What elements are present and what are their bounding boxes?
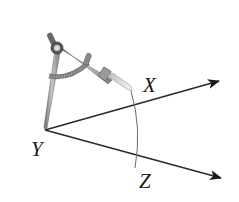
label-x: X (143, 75, 156, 96)
angle-construction-figure (0, 0, 239, 202)
compass-icon (44, 32, 132, 130)
label-z: Z (139, 171, 151, 192)
label-y: Y (31, 139, 43, 160)
ray-yx (45, 81, 219, 130)
ray-yz (45, 130, 221, 178)
diagram-canvas: X Y Z (0, 0, 239, 202)
construction-arc (131, 91, 138, 168)
